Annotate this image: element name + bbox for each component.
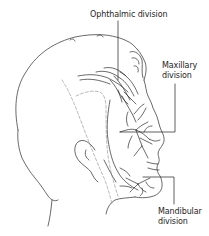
jaw-line [106,197,135,214]
trigeminal-nerve-diagram: Ophthalmic division Maxillary division M… [0,0,209,236]
label-mandibular-division: Mandibular division [158,207,202,227]
label-mandibular-line2: division [158,217,202,227]
label-ophthalmic-text: Ophthalmic division [90,10,167,20]
maxillary-pointer [120,84,175,132]
hair-back-edge [18,130,58,201]
label-maxillary-division: Maxillary division [162,61,197,81]
ear-icon [75,140,98,182]
maxillary-branches [120,104,152,158]
forehead-folds [130,51,143,78]
head-illustration [0,0,209,236]
pointer-lines [118,21,175,204]
neck-line-back [48,200,52,226]
label-ophthalmic-division: Ophthalmic division [90,10,167,20]
mandibular-pointer [143,177,174,204]
mandibular-branches [120,168,154,196]
label-maxillary-line2: division [162,71,197,81]
label-maxillary-line1: Maxillary [162,61,197,71]
dermatome-boundaries [62,80,118,204]
ophthalmic-branches [78,67,138,104]
label-mandibular-line1: Mandibular [158,207,202,217]
